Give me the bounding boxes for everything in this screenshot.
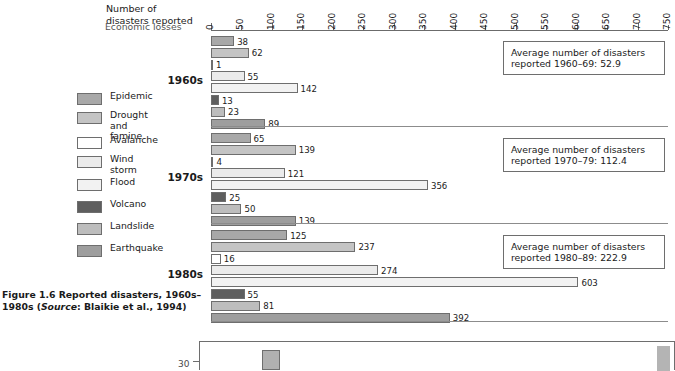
bar xyxy=(211,242,355,252)
bar-value-label: 274 xyxy=(381,266,397,276)
bottom-partial-figure xyxy=(199,341,675,370)
bar-value-label: 13 xyxy=(222,96,233,106)
bar-value-label: 16 xyxy=(224,254,235,264)
bar xyxy=(211,230,287,240)
legend-label: Landslide xyxy=(110,221,154,232)
caption-source-word: Source xyxy=(41,301,77,312)
legend-swatch xyxy=(77,179,102,191)
bar xyxy=(211,168,285,178)
bottom-axis-tick-label: 30 xyxy=(178,359,189,369)
x-axis-tick-label: 600 xyxy=(571,13,581,30)
bar xyxy=(211,107,225,117)
bar-value-label: 139 xyxy=(299,216,315,226)
bottom-right-bar xyxy=(657,346,670,371)
x-axis-tick-label: 350 xyxy=(418,13,428,30)
bar-value-label: 38 xyxy=(237,37,248,47)
x-axis-tick-label: 50 xyxy=(235,19,245,30)
decade-label-1970s: 1970s xyxy=(143,171,203,183)
legend-swatch xyxy=(77,156,102,168)
legend-label: Flood xyxy=(110,177,135,188)
x-axis-tick-label: 450 xyxy=(479,13,489,30)
legend-swatch xyxy=(77,112,102,124)
x-axis-tick-label: 200 xyxy=(327,13,337,30)
bar xyxy=(211,157,213,167)
bar xyxy=(211,95,219,105)
legend-label: Avalanche xyxy=(110,135,158,146)
bar xyxy=(211,301,260,311)
economic-losses-swatch xyxy=(262,350,280,370)
bar xyxy=(211,36,234,46)
bar xyxy=(211,48,249,58)
bar-value-label: 121 xyxy=(288,169,304,179)
bar-value-label: 125 xyxy=(290,231,306,241)
bar xyxy=(211,133,251,143)
bar-value-label: 55 xyxy=(248,72,259,82)
figure-caption: Figure 1.6 Reported disasters, 1960s–198… xyxy=(2,289,202,312)
bar xyxy=(211,289,245,299)
bar xyxy=(211,216,296,226)
x-axis-tick-label: 750 xyxy=(662,13,672,30)
bar-value-label: 50 xyxy=(244,204,255,214)
bar xyxy=(211,204,241,214)
x-axis-tick-label: 150 xyxy=(296,13,306,30)
group-separator xyxy=(211,126,668,127)
chart-plot-area: 0501001502002503003504004505005506006507… xyxy=(211,30,668,322)
x-axis-tick-label: 500 xyxy=(510,13,520,30)
bar-value-label: 65 xyxy=(254,134,265,144)
bar xyxy=(211,265,378,275)
legend-label: Epidemic xyxy=(110,91,153,102)
bar xyxy=(211,119,265,129)
decade-label-1980s: 1980s xyxy=(143,268,203,280)
bottom-legend-label: Economic losses xyxy=(105,21,181,32)
bar-value-label: 89 xyxy=(268,119,279,129)
bar xyxy=(211,277,578,287)
legend-swatch xyxy=(77,201,102,213)
bottom-axis-line xyxy=(199,348,200,370)
decade-label-1960s: 1960s xyxy=(143,74,203,86)
bar-value-label: 1 xyxy=(216,60,221,70)
bar-value-label: 55 xyxy=(248,290,259,300)
legend-label: Earthquake xyxy=(110,243,163,254)
bar xyxy=(211,254,221,264)
bar-value-label: 356 xyxy=(431,181,447,191)
bar-value-label: 4 xyxy=(216,157,221,167)
bar-value-label: 142 xyxy=(301,84,317,94)
x-axis-tick-label: 300 xyxy=(388,13,398,30)
caption-suffix: : Blaikie et al., 1994) xyxy=(77,301,186,312)
bar-value-label: 25 xyxy=(229,193,240,203)
bar xyxy=(211,145,296,155)
legend-swatch xyxy=(77,137,102,149)
average-annotation-box: Average number of disasters reported 198… xyxy=(503,235,665,269)
legend-label: Wind storm xyxy=(110,154,137,175)
legend-swatch xyxy=(77,93,102,105)
bar xyxy=(211,192,226,202)
average-annotation-box: Average number of disasters reported 197… xyxy=(503,138,665,172)
legend-label: Volcano xyxy=(110,199,146,210)
bar-value-label: 237 xyxy=(358,242,374,252)
legend-swatch xyxy=(77,223,102,235)
bar xyxy=(211,180,428,190)
bar-value-label: 23 xyxy=(228,107,239,117)
x-axis-line xyxy=(211,30,668,31)
group-separator xyxy=(211,223,668,224)
bar-value-label: 81 xyxy=(263,301,274,311)
x-axis-tick-label: 400 xyxy=(449,13,459,30)
x-axis-tick-label: 100 xyxy=(266,13,276,30)
x-axis-tick-label: 550 xyxy=(540,13,550,30)
bar-value-label: 139 xyxy=(299,145,315,155)
bar xyxy=(211,71,245,81)
bar-value-label: 62 xyxy=(252,48,263,58)
bar xyxy=(211,83,298,93)
x-axis-tick-label: 650 xyxy=(601,13,611,30)
bar-value-label: 603 xyxy=(581,278,597,288)
average-annotation-box: Average number of disasters reported 196… xyxy=(503,41,665,75)
x-axis-tick-label: 700 xyxy=(632,13,642,30)
legend-swatch xyxy=(77,245,102,257)
x-axis-tick-label: 250 xyxy=(357,13,367,30)
x-axis-tick-label: 0 xyxy=(205,24,215,30)
group-separator xyxy=(211,321,668,322)
bar xyxy=(211,60,213,70)
